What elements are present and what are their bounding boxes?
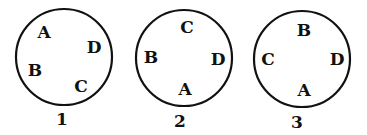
point-label-b: B [28,60,42,80]
circle-group-3: BCDA3 [254,11,350,132]
point-label-d: D [330,49,345,69]
point-label-a: A [177,79,192,99]
circle-group-1: ADBC1 [16,9,112,129]
figure-number: 3 [291,112,303,132]
point-label-d: D [87,37,102,57]
point-label-b: B [297,20,311,40]
circle-arrangement-diagram: ADBC1CBDA2BCDA3 [0,0,367,135]
point-label-c: C [74,76,88,96]
point-label-c: C [180,17,194,37]
point-label-b: B [144,47,158,67]
point-label-a: A [36,22,51,42]
figure-number: 1 [56,109,68,129]
circle-outline [16,9,112,105]
point-label-d: D [211,49,226,69]
point-label-a: A [296,80,311,100]
circle-group-2: CBDA2 [136,10,232,131]
figure-number: 2 [174,111,186,131]
point-label-c: C [261,49,275,69]
